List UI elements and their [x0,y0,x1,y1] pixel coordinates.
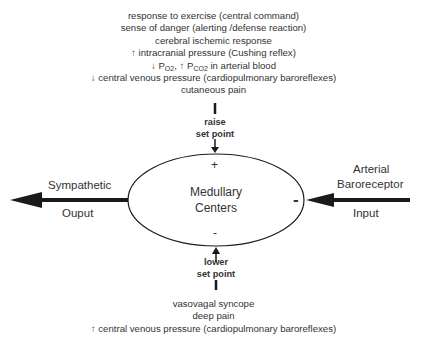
baroreceptor-input-label-line3: Input [353,207,379,219]
baroreceptor-input-arrow-head-icon [306,193,334,207]
minus-sign-right: - [293,190,299,210]
influence-item: vasovagal syncope [0,298,427,310]
raise-arrow-head-icon [211,147,219,153]
medullary-centers-label: Medullary Centers [156,184,276,216]
influence-item: ↑ central venous pressure (cardiopulmona… [0,323,427,335]
baroreceptor-input-label-line1: Arterial [353,163,389,175]
lower-set-point-label: lower set point [176,256,256,280]
influence-item: deep pain [0,310,427,322]
lower-arrow-head-icon [212,247,220,254]
sympathetic-output-label-line1: Sympathetic [48,179,111,191]
raise-set-point-label: raise set point [175,116,255,140]
sympathetic-output-arrow-head-icon [10,192,42,208]
plus-sign: + [211,158,218,172]
minus-sign-bottom: - [213,226,217,240]
lower-set-point-influences-list: vasovagal syncope deep pain ↑ central ve… [0,298,427,335]
baroreceptor-input-label-line2: Baroreceptor [337,178,403,190]
sympathetic-output-label-line2: Ouput [62,207,93,219]
